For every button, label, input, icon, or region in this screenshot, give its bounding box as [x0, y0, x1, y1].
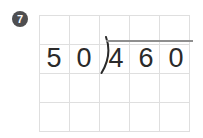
dividend-digit-ones: 0	[161, 44, 191, 73]
problem-number: 7	[17, 14, 23, 25]
problem-number-badge: 7	[12, 11, 28, 27]
grid-paper	[39, 15, 190, 132]
dividend-digit-tens: 6	[131, 44, 161, 73]
worksheet-canvas: 7 5 0 4 6 0	[0, 0, 203, 138]
divisor-digit-ones: 0	[69, 44, 99, 73]
divisor-digit-tens: 5	[39, 44, 69, 73]
division-bar	[106, 40, 193, 42]
dividend-digit-hundreds: 4	[101, 44, 131, 73]
